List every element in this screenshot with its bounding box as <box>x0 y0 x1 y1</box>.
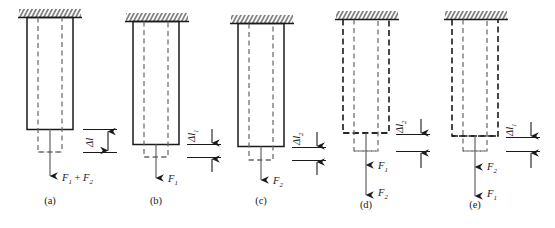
panel-d: F1 F2 Δl2 (d) <box>335 11 430 211</box>
panel-e-support <box>444 11 508 20</box>
panel-c-bar-deformed <box>249 24 273 161</box>
panel-d-force-label-2: F2 <box>377 187 388 201</box>
panel-e-bar-inner <box>463 20 487 152</box>
panel-b-caption: (b) <box>150 195 163 207</box>
panel-d-support <box>335 11 399 20</box>
panel-c-caption: (c) <box>255 195 267 207</box>
panel-d-bar-inner <box>354 20 378 152</box>
panel-e-elongation-label: Δl1 <box>504 123 518 137</box>
panel-e: F2 F1 Δl1 (e) <box>444 11 540 211</box>
panel-b-bar-original <box>133 22 179 145</box>
panel-a-elongation-label: Δl <box>84 138 95 148</box>
panel-d-force-label-1: F1 <box>377 160 388 174</box>
panel-b-bar-deformed <box>144 22 168 158</box>
figure-canvas: F1 + F2 Δl (a) F1 Δl1 <box>0 0 555 228</box>
panel-c-force-label: F2 <box>272 175 283 189</box>
panel-e-bar-outer <box>452 20 498 137</box>
panel-a-support <box>18 9 82 18</box>
panel-a-bar-original <box>27 18 73 130</box>
panel-b-support <box>125 13 189 22</box>
panel-b-force-label: F1 <box>167 173 178 187</box>
panel-d-caption: (d) <box>360 199 373 211</box>
panel-a-caption: (a) <box>44 195 56 207</box>
panel-c-elongation-label: Δl2 <box>291 132 305 146</box>
panel-d-bar-outer <box>343 20 389 134</box>
panel-e-force-label-2: F1 <box>486 188 497 202</box>
panel-a-force-label: F1 + F2 <box>61 172 94 186</box>
panel-c: F2 Δl2 (c) <box>230 15 326 207</box>
panel-e-force-label-1: F2 <box>486 161 497 175</box>
panel-d-elongation-label: Δl2 <box>394 120 408 134</box>
panel-c-support <box>230 15 294 24</box>
panel-e-caption: (e) <box>469 199 481 211</box>
panel-a: F1 + F2 Δl (a) <box>18 9 117 207</box>
panel-c-bar-original <box>238 24 284 147</box>
panel-b-elongation-label: Δl1 <box>186 129 200 143</box>
panel-b: F1 Δl1 (b) <box>125 13 221 207</box>
